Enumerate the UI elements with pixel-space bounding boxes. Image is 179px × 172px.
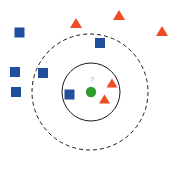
data-point-triangle-orange [107, 78, 118, 87]
data-point-square-blue [38, 68, 48, 78]
data-point-triangle-orange [99, 94, 110, 103]
data-point-triangle-orange [113, 10, 125, 20]
data-point-square-blue [11, 87, 21, 97]
data-point-square-blue [65, 90, 75, 100]
data-point-triangle-orange [156, 26, 168, 36]
data-point-square-blue [95, 38, 105, 48]
knn-diagram: ? [0, 0, 179, 172]
data-point-square-blue [10, 67, 20, 77]
query-point-marker [86, 87, 96, 97]
query-point-label: ? [90, 76, 94, 83]
data-point-square-blue [15, 28, 25, 38]
query-point-group: ? [86, 76, 96, 97]
data-point-triangle-orange [70, 18, 82, 28]
knn-scatter-plot: ? [0, 0, 179, 172]
